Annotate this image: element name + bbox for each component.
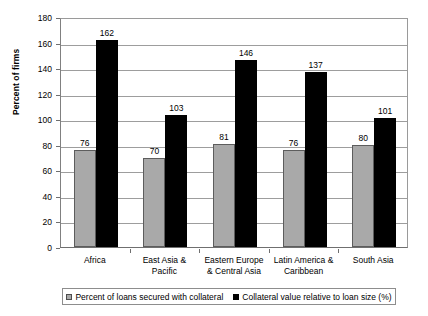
bar-collateral-value (96, 40, 118, 247)
legend-label-collateral-value: Collateral value relative to loan size (… (242, 292, 391, 302)
bar-value-label: 103 (156, 104, 196, 113)
y-tick-label: 40 (26, 193, 52, 202)
x-tick-mark (199, 249, 200, 253)
bar-secured (352, 145, 374, 247)
bar-collateral-value (374, 118, 396, 247)
x-category-line: Caribbean (262, 266, 346, 277)
chart-legend: Percent of loans secured with collateral… (62, 288, 396, 305)
bar-chart: Percent of firms 18016014012010080604020… (0, 0, 428, 316)
bar-value-label: 101 (365, 107, 405, 116)
x-category-line: South Asia (331, 255, 415, 266)
y-tick-label: 0 (26, 244, 52, 253)
bar-group: 81146 (213, 19, 257, 247)
y-tick-label: 80 (26, 142, 52, 151)
x-tick-mark (338, 249, 339, 253)
x-tick-mark (269, 249, 270, 253)
bar-secured (74, 150, 96, 247)
legend-item-collateral-value: Collateral value relative to loan size (… (233, 292, 391, 302)
bar-group: 76162 (74, 19, 118, 247)
y-tick-label: 60 (26, 167, 52, 176)
black-swatch-icon (233, 294, 239, 300)
y-tick-label: 20 (26, 218, 52, 227)
plot-area: 7616270103811467613780101 (60, 18, 408, 248)
gray-swatch-icon (66, 294, 72, 300)
bar-value-label: 137 (296, 61, 336, 70)
y-tick-label: 180 (26, 14, 52, 23)
y-axis-title: Percent of firms (11, 91, 21, 115)
bar-secured (283, 150, 305, 247)
y-tick-label: 160 (26, 40, 52, 49)
y-tick-label: 120 (26, 91, 52, 100)
bar-group: 76137 (283, 19, 327, 247)
legend-label-secured: Percent of loans secured with collateral (75, 292, 223, 302)
bar-secured (143, 158, 165, 247)
bar-collateral-value (305, 72, 327, 247)
y-tick-label: 100 (26, 116, 52, 125)
bar-value-label: 162 (87, 29, 127, 38)
bar-value-label: 146 (226, 49, 266, 58)
bar-group: 80101 (352, 19, 396, 247)
bar-collateral-value (235, 60, 257, 247)
x-tick-mark (130, 249, 131, 253)
x-category-label: South Asia (331, 255, 415, 266)
y-tick-mark (56, 248, 60, 249)
bar-group: 70103 (143, 19, 187, 247)
bar-secured (213, 144, 235, 248)
legend-item-secured: Percent of loans secured with collateral (66, 292, 223, 302)
y-tick-label: 140 (26, 65, 52, 74)
bar-collateral-value (165, 115, 187, 247)
